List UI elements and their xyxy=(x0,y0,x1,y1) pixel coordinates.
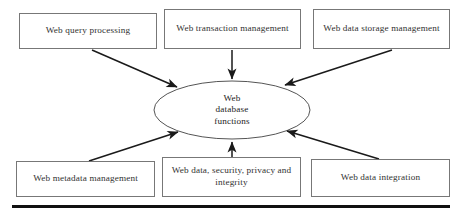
node-label: Web data integration xyxy=(316,172,445,184)
node-web-data-storage-management: Web data storage management xyxy=(313,9,450,49)
node-label: Web query processing xyxy=(24,25,152,37)
node-label: Web metadata management xyxy=(21,173,150,185)
node-label: Web data storage management xyxy=(318,23,445,35)
diagram-canvas: Web query processing Web transaction man… xyxy=(0,0,467,214)
bottom-rule xyxy=(12,205,450,208)
node-web-data-security-privacy-integrity: Web data, security, privacy and integrit… xyxy=(162,157,301,197)
node-web-transaction-management: Web transaction management xyxy=(164,9,301,49)
node-web-metadata-management: Web metadata management xyxy=(16,161,155,197)
node-web-query-processing: Web query processing xyxy=(19,13,157,49)
node-label: Web transaction management xyxy=(169,23,296,35)
node-label: Web data, security, privacy and integrit… xyxy=(167,165,296,188)
node-web-data-integration: Web data integration xyxy=(311,159,450,197)
